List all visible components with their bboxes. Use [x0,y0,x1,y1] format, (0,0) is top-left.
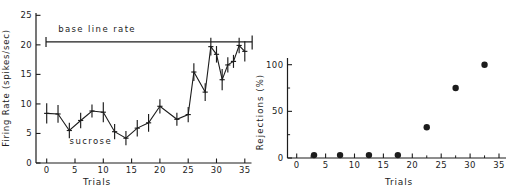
x-tick-label: 30 [211,165,223,175]
y-tick-label: 20 [20,40,32,50]
x-tick-label: 10 [97,165,109,175]
scatter-point [395,152,401,158]
series-label-sucrose: sucrose [70,136,112,146]
scatter-point [452,85,458,91]
x-tick-label: 20 [154,165,166,175]
y-tick-label: 10 [20,99,32,109]
x-tick-label: 35 [493,160,505,170]
x-tick-label: 10 [349,160,361,170]
rejections-chart: 05101520253035050100TrialsRejections (%) [252,0,517,194]
x-tick-label: 15 [378,160,390,170]
x-tick-label: 25 [435,160,447,170]
x-tick-label: 5 [72,165,78,175]
x-tick-label: 20 [406,160,418,170]
scatter-point [424,124,430,130]
y-tick-label: 0 [278,153,284,163]
x-axis-title: Trials [82,177,111,187]
x-tick-label: 35 [239,165,251,175]
x-axis-title: Trials [384,177,413,187]
scatter-point [366,152,372,158]
x-tick-label: 5 [323,160,329,170]
y-tick-label: 0 [26,158,32,168]
y-axis-title: Rejections (%) [255,74,265,151]
scatter-point [481,61,487,67]
x-tick-label: 0 [44,165,50,175]
y-axis-title: Firing Rate (spikes/sec) [1,29,11,147]
x-tick-label: 25 [182,165,194,175]
scatter-point [337,152,343,158]
x-tick-label: 15 [126,165,138,175]
series-line [47,46,245,139]
y-tick-label: 5 [26,128,32,138]
y-tick-label: 50 [272,106,284,116]
baseline-label: base line rate [58,24,136,34]
y-tick-label: 25 [20,10,32,20]
firing-rate-chart: 051015202530350510152025TrialsFiring Rat… [0,0,260,194]
y-tick-label: 15 [20,69,32,79]
y-tick-label: 100 [266,60,283,70]
two-panel-figure: 051015202530350510152025TrialsFiring Rat… [0,0,517,194]
scatter-point [311,152,317,158]
x-tick-label: 0 [294,160,300,170]
x-tick-label: 30 [464,160,476,170]
